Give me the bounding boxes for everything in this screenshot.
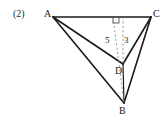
edge-c-b xyxy=(124,17,151,103)
vertex-label-a: A xyxy=(44,9,51,19)
geometry-diagram xyxy=(0,0,167,120)
geometry-figure-panel: (2) A C D B 5 3 xyxy=(0,0,167,120)
problem-number-label: (2) xyxy=(13,9,25,19)
edge-a-b xyxy=(53,17,124,103)
measure-label-right: 3 xyxy=(124,36,129,45)
solid-edges xyxy=(53,17,151,103)
dashed-height-left xyxy=(113,17,124,103)
measure-label-left: 5 xyxy=(105,36,110,45)
vertex-label-d: D xyxy=(115,66,122,76)
edge-a-d xyxy=(53,17,123,64)
vertex-label-b: B xyxy=(119,106,126,116)
dashed-construction-lines xyxy=(113,17,124,103)
vertex-label-c: C xyxy=(153,9,160,19)
